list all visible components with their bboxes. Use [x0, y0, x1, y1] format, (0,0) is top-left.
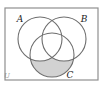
set-label-c: C: [67, 70, 74, 80]
venn-diagram-canvas: A B C U: [0, 0, 104, 89]
venn-diagram-figure: A B C U: [0, 0, 104, 89]
set-label-b: B: [80, 14, 88, 24]
shaded-region-c-only: [0, 0, 104, 89]
set-label-a: A: [16, 14, 24, 24]
